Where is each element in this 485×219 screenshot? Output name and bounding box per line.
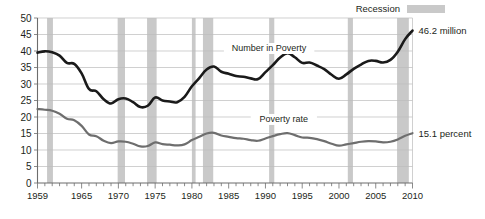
x-axis-tick-label: 2005 <box>365 190 386 201</box>
y-axis-tick-label: 40 <box>20 46 32 57</box>
x-axis-tick-label: 1970 <box>108 190 129 201</box>
annotation-number-in-poverty: Number in Poverty <box>232 43 307 53</box>
y-axis-tick-label: 5 <box>26 161 32 172</box>
y-axis-tick-label: 0 <box>26 178 32 189</box>
x-axis-tick-label: 1975 <box>145 190 166 201</box>
x-axis-tick-label: 1995 <box>292 190 313 201</box>
chart-canvas: 05101520253035404550 1959196519701975198… <box>0 0 485 219</box>
y-axis-tick-label: 50 <box>20 13 32 24</box>
y-axis-tick-label: 35 <box>20 62 32 73</box>
y-axis-tick-label: 10 <box>20 145 32 156</box>
poverty-chart: 05101520253035404550 1959196519701975198… <box>0 0 485 219</box>
legend-recession-swatch <box>407 5 445 13</box>
x-axis-tick-label: 1985 <box>218 190 239 201</box>
x-axis-tick-label: 2010 <box>402 190 423 201</box>
x-axis-tick-label: 1965 <box>71 190 92 201</box>
x-axis-tick-label: 1959 <box>27 190 48 201</box>
x-axis-tick-label: 1990 <box>255 190 276 201</box>
legend-recession-label: Recession <box>356 3 400 14</box>
annotation-poverty-rate: Poverty rate <box>260 114 309 124</box>
endpoint-label-rate-endpoint: 15.1 percent <box>419 128 472 139</box>
endpoint-label-number-endpoint: 46.2 million <box>419 25 467 36</box>
y-axis-tick-label: 15 <box>20 128 32 139</box>
x-axis-tick-label: 1980 <box>181 190 202 201</box>
y-axis-tick-label: 25 <box>20 95 32 106</box>
y-axis-tick-label: 30 <box>20 79 32 90</box>
y-axis-tick-label: 20 <box>20 112 32 123</box>
y-axis-tick-label: 45 <box>20 29 32 40</box>
x-axis-tick-label: 2000 <box>328 190 349 201</box>
